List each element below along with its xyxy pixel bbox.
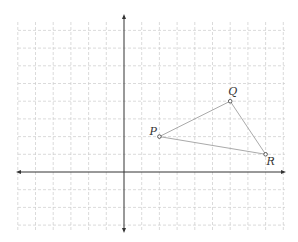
triangle-pqr: PQR — [148, 85, 274, 168]
x-axis-left-arrow-icon — [16, 170, 21, 174]
y-axis-up-arrow-icon — [122, 14, 126, 19]
point-label-q: Q — [228, 85, 237, 98]
y-axis-down-arrow-icon — [122, 228, 126, 233]
point-label-r: R — [266, 155, 275, 168]
coordinate-plane: PQR — [0, 0, 298, 242]
point-q — [228, 99, 232, 103]
point-p — [158, 135, 162, 139]
point-label-p: P — [148, 125, 157, 138]
